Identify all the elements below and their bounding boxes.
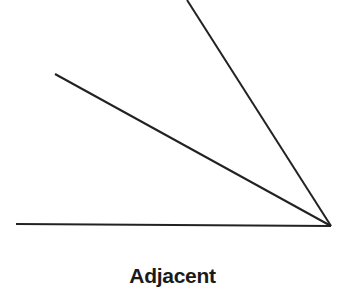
steep-ray-line — [187, 0, 331, 226]
angle-diagram — [0, 0, 337, 302]
middle-ray-line — [55, 74, 331, 226]
adjacent-label: Adjacent — [0, 264, 337, 288]
adjacent-side-line — [16, 224, 331, 226]
